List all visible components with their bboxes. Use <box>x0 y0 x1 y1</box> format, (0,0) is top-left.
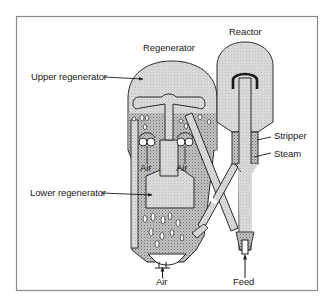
air-bottom-label: Air <box>156 277 167 287</box>
feed-label: Feed <box>233 277 254 287</box>
stripper-label: Stripper <box>274 131 306 141</box>
reactor-vessel <box>217 42 273 278</box>
air-right-label: Air <box>176 163 187 173</box>
reactor-label: Reactor <box>229 27 262 37</box>
regenerator-label: Regenerator <box>143 43 195 53</box>
upper-regenerator-label: Upper regenerator <box>31 72 107 82</box>
air-left-label: Air <box>140 163 151 173</box>
lower-regenerator-label: Lower regenerator <box>30 188 106 198</box>
fcc-diagram: Regenerator Reactor Upper regenerator Lo… <box>0 0 331 304</box>
pointer-stripper <box>257 137 271 140</box>
steam-label: Steam <box>274 149 301 159</box>
